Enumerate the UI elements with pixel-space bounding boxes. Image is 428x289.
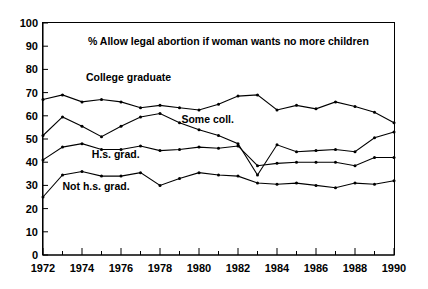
y-tick-label: 10 xyxy=(26,226,38,238)
data-point xyxy=(315,149,318,152)
series-label: College graduate xyxy=(86,71,171,83)
y-tick-label: 90 xyxy=(26,40,38,52)
data-point xyxy=(198,128,201,131)
series-label: H.s. grad. xyxy=(92,148,140,160)
data-point xyxy=(373,136,376,139)
data-point xyxy=(178,148,181,151)
data-point xyxy=(393,121,396,124)
data-point xyxy=(217,173,220,176)
x-tick-label: 1982 xyxy=(226,262,250,274)
data-point xyxy=(81,100,84,103)
data-point xyxy=(217,134,220,137)
data-point xyxy=(334,161,337,164)
data-point xyxy=(159,112,162,115)
data-point xyxy=(61,115,64,118)
data-point xyxy=(237,144,240,147)
data-point xyxy=(178,106,181,109)
data-point xyxy=(393,131,396,134)
x-tick-label: 1990 xyxy=(382,262,406,274)
data-point xyxy=(139,171,142,174)
data-point xyxy=(61,173,64,176)
data-point xyxy=(139,106,142,109)
data-point xyxy=(295,150,298,153)
data-point xyxy=(217,103,220,106)
data-point xyxy=(42,196,45,199)
x-tick-label: 1980 xyxy=(187,262,211,274)
data-point xyxy=(256,173,259,176)
data-point xyxy=(354,164,357,167)
data-point xyxy=(334,100,337,103)
data-point xyxy=(120,175,123,178)
data-point xyxy=(42,158,45,161)
y-tick-label: 20 xyxy=(26,203,38,215)
data-point xyxy=(159,104,162,107)
data-point xyxy=(354,182,357,185)
x-tick-label: 1974 xyxy=(70,262,95,274)
data-point xyxy=(42,134,45,137)
data-point xyxy=(178,177,181,180)
x-axis: 1972197419761978198019821984198619881990 xyxy=(31,248,406,274)
data-point xyxy=(295,161,298,164)
x-tick-label: 1986 xyxy=(304,262,328,274)
data-point xyxy=(159,184,162,187)
data-point xyxy=(61,146,64,149)
x-tick-label: 1988 xyxy=(343,262,367,274)
data-point xyxy=(276,162,279,165)
data-point xyxy=(81,142,84,145)
y-axis: 0102030405060708090100 xyxy=(20,17,48,261)
data-point xyxy=(315,161,318,164)
data-point xyxy=(198,171,201,174)
data-point xyxy=(295,104,298,107)
data-point xyxy=(256,93,259,96)
line-chart: 0102030405060708090100 19721974197619781… xyxy=(0,0,428,289)
data-point xyxy=(237,175,240,178)
data-point xyxy=(61,93,64,96)
data-point xyxy=(139,115,142,118)
y-tick-label: 0 xyxy=(32,249,38,261)
y-tick-label: 40 xyxy=(26,156,38,168)
data-point xyxy=(256,182,259,185)
y-tick-label: 100 xyxy=(20,17,38,29)
data-point xyxy=(393,179,396,182)
data-point xyxy=(354,105,357,108)
data-point xyxy=(256,164,259,167)
data-point xyxy=(354,150,357,153)
data-point xyxy=(198,146,201,149)
data-point xyxy=(100,135,103,138)
x-tick-label: 1978 xyxy=(148,262,172,274)
data-point xyxy=(393,156,396,159)
data-point xyxy=(100,98,103,101)
data-point xyxy=(237,95,240,98)
data-point xyxy=(315,184,318,187)
series-label: Not h.s. grad. xyxy=(63,180,130,192)
data-point xyxy=(217,147,220,150)
data-point xyxy=(334,148,337,151)
data-point xyxy=(120,100,123,103)
y-tick-label: 80 xyxy=(26,63,38,75)
plot-frame xyxy=(43,23,395,256)
data-point xyxy=(276,143,279,146)
data-point xyxy=(295,182,298,185)
y-tick-label: 60 xyxy=(26,110,38,122)
x-tick-label: 1984 xyxy=(265,262,290,274)
chart-title: % Allow legal abortion if woman wants no… xyxy=(88,35,369,47)
data-point xyxy=(373,183,376,186)
data-point xyxy=(100,175,103,178)
data-point xyxy=(198,109,201,112)
data-point xyxy=(159,149,162,152)
y-tick-label: 30 xyxy=(26,179,38,191)
series-label: Some coll. xyxy=(181,113,234,125)
data-point xyxy=(81,125,84,128)
data-point xyxy=(81,170,84,173)
data-point xyxy=(373,111,376,114)
x-tick-label: 1976 xyxy=(109,262,133,274)
data-point xyxy=(120,125,123,128)
data-point xyxy=(42,98,45,101)
chart-container: 0102030405060708090100 19721974197619781… xyxy=(0,0,428,289)
data-point xyxy=(276,109,279,112)
data-point xyxy=(334,186,337,189)
data-point xyxy=(276,183,279,186)
data-point xyxy=(315,107,318,110)
y-tick-label: 50 xyxy=(26,133,38,145)
x-tick-label: 1972 xyxy=(31,262,55,274)
